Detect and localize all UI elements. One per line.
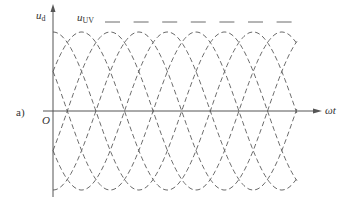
origin-label: O (42, 115, 50, 126)
x-axis-label: ωt (325, 105, 336, 116)
panel-label: a) (16, 107, 25, 118)
waveform-diagram (0, 0, 353, 212)
x-axis-arrow-icon (313, 109, 322, 114)
y-axis-arrow-icon (51, 4, 56, 12)
envelope-label: uUV (77, 12, 94, 25)
y-axis-label: ud (36, 10, 46, 23)
